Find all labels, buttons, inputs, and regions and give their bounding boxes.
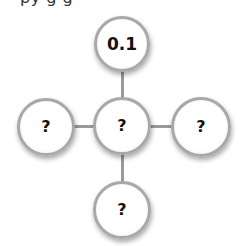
- cropped-header-text: py g g: [20, 0, 73, 7]
- node-left: ?: [17, 98, 75, 156]
- connector-center-bottom: [121, 152, 124, 184]
- node-top-label: 0.1: [107, 36, 137, 53]
- node-center-label: ?: [117, 118, 126, 134]
- node-bottom-label: ?: [117, 202, 126, 218]
- node-right-label: ?: [196, 119, 205, 135]
- node-left-label: ?: [41, 119, 50, 135]
- node-bottom: ?: [93, 181, 151, 239]
- connector-top-center: [121, 68, 124, 100]
- node-center: ?: [93, 97, 151, 155]
- node-right: ?: [171, 97, 231, 157]
- node-top: 0.1: [94, 16, 150, 72]
